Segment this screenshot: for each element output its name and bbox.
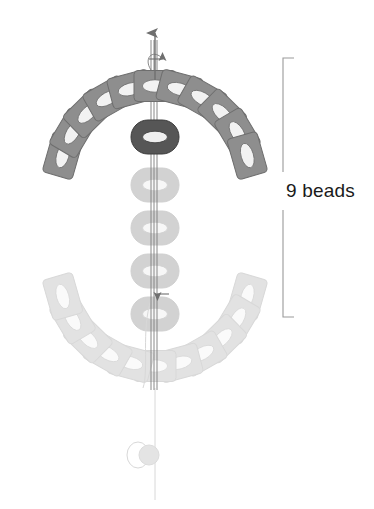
ghost-column-bead xyxy=(131,297,179,331)
thread-knot xyxy=(127,442,159,468)
ghost-column-bead xyxy=(131,254,179,288)
bracket-label: 9 beads xyxy=(286,180,355,202)
ghost-column-bead xyxy=(131,168,179,202)
active-dark-bead xyxy=(131,120,179,154)
ghost-bead xyxy=(42,272,83,321)
dark-bead xyxy=(131,120,179,154)
ghost-bead-column xyxy=(131,168,179,331)
bead-diagram-svg xyxy=(0,0,374,509)
ghost-column-bead xyxy=(131,211,179,245)
arc-bead xyxy=(227,131,268,180)
diagram-canvas xyxy=(0,0,374,509)
